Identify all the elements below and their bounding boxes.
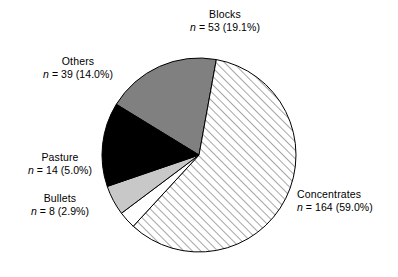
pie-chart-figure: Blocks n = 53 (19.1%) Others n = 39 (14.… bbox=[0, 0, 398, 277]
slice-label-concentrates-value: = 164 (59.0%) bbox=[306, 201, 373, 213]
slice-label-others-value: = 39 (14.0%) bbox=[52, 68, 113, 80]
slice-label-concentrates: Concentrates n = 164 (59.0%) bbox=[297, 188, 398, 215]
pie-chart-svg bbox=[0, 0, 398, 277]
slice-label-blocks: Blocks n = 53 (19.1%) bbox=[163, 8, 287, 35]
slice-label-bullets-stat: n = 8 (2.9%) bbox=[4, 205, 116, 218]
slice-label-pasture-stat: n = 14 (5.0%) bbox=[4, 164, 116, 177]
n-symbol: n bbox=[297, 201, 303, 213]
n-symbol: n bbox=[190, 21, 196, 33]
slice-label-blocks-value: = 53 (19.1%) bbox=[199, 21, 260, 33]
slice-label-bullets: Bullets n = 8 (2.9%) bbox=[4, 192, 116, 219]
pie-slice-group bbox=[102, 58, 296, 252]
slice-label-blocks-name: Blocks bbox=[163, 8, 287, 21]
slice-label-pasture-value: = 14 (5.0%) bbox=[37, 164, 92, 176]
n-symbol: n bbox=[43, 68, 49, 80]
n-symbol: n bbox=[28, 164, 34, 176]
slice-label-others-name: Others bbox=[16, 55, 140, 68]
n-symbol: n bbox=[31, 205, 37, 217]
slice-label-concentrates-stat: n = 164 (59.0%) bbox=[297, 201, 398, 214]
slice-label-concentrates-name: Concentrates bbox=[297, 188, 398, 201]
slice-label-bullets-value: = 8 (2.9%) bbox=[40, 205, 89, 217]
slice-label-others: Others n = 39 (14.0%) bbox=[16, 55, 140, 82]
slice-label-blocks-stat: n = 53 (19.1%) bbox=[163, 21, 287, 34]
slice-label-pasture: Pasture n = 14 (5.0%) bbox=[4, 151, 116, 178]
slice-label-others-stat: n = 39 (14.0%) bbox=[16, 68, 140, 81]
slice-label-pasture-name: Pasture bbox=[4, 151, 116, 164]
slice-label-bullets-name: Bullets bbox=[4, 192, 116, 205]
